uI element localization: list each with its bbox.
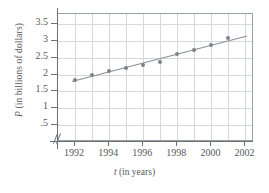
y-axis-tick-label: 1 — [43, 100, 48, 111]
x-axis-tick — [210, 141, 211, 146]
y-axis-tick-label: 3.5 — [36, 16, 49, 27]
data-point — [141, 63, 145, 67]
y-axis-tick-label: 2.5 — [36, 50, 49, 61]
gridline-vertical — [143, 14, 144, 140]
y-axis-title: P (in billions of dollars) — [14, 0, 24, 140]
data-point — [192, 48, 196, 52]
y-axis-tick-label: .5 — [41, 117, 49, 128]
gridline-vertical — [228, 14, 229, 140]
gridline-horizontal — [58, 24, 252, 25]
data-point — [209, 43, 213, 47]
data-point — [175, 52, 179, 56]
x-axis-tick — [74, 141, 75, 146]
y-axis-title-text: (in billions of dollars) — [14, 23, 24, 111]
x-axis-tick — [108, 141, 109, 146]
data-point — [90, 73, 94, 77]
gridline-vertical — [177, 14, 178, 140]
gridline-vertical — [160, 14, 161, 140]
x-axis-tick-label: 1992 — [64, 147, 84, 158]
gridline-vertical — [211, 14, 212, 140]
x-axis-title: t (in years) — [0, 167, 269, 177]
x-axis-tick — [142, 141, 143, 146]
data-point — [73, 78, 77, 82]
gridline-vertical — [126, 14, 127, 140]
x-axis-tick-label: 1994 — [98, 147, 118, 158]
y-axis-tick-label: 3 — [43, 33, 48, 44]
gridline-vertical — [194, 14, 195, 140]
gridline-horizontal — [58, 91, 252, 92]
gridline-horizontal — [58, 108, 252, 109]
gridline-vertical — [109, 14, 110, 140]
gridline-vertical — [245, 14, 246, 140]
x-axis-tick-label: 2000 — [200, 147, 220, 158]
x-axis-tick — [176, 141, 177, 146]
x-axis-line — [50, 141, 253, 142]
y-axis-line — [57, 8, 58, 149]
plot-area — [57, 13, 253, 141]
x-axis-title-text: (in years) — [117, 167, 156, 177]
gridline-horizontal — [58, 125, 252, 126]
axis-break-icon — [52, 133, 64, 145]
x-axis-tick — [244, 141, 245, 146]
y-axis-tick-label: 2 — [43, 67, 48, 78]
x-axis-tick-label: 1998 — [166, 147, 186, 158]
gridline-horizontal — [58, 75, 252, 76]
y-axis-tick-label: 1.5 — [36, 83, 49, 94]
x-axis-tick-label: 2002 — [234, 147, 254, 158]
data-point — [158, 60, 162, 64]
chart-container: P (in billions of dollars) .511.522.533.… — [0, 0, 269, 193]
data-point — [226, 36, 230, 40]
data-point — [124, 66, 128, 70]
y-axis-title-variable: P — [14, 111, 24, 117]
data-point — [107, 69, 111, 73]
x-axis-tick-label: 1996 — [132, 147, 152, 158]
